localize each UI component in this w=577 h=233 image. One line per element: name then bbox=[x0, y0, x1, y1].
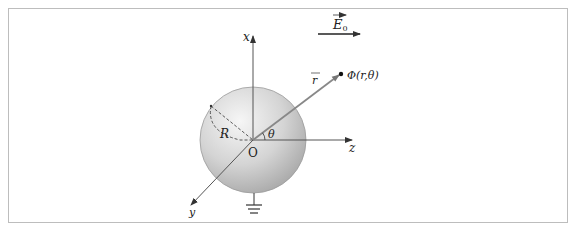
potential-label: Φ(r,θ) bbox=[347, 69, 379, 82]
radius-label: R bbox=[219, 127, 229, 141]
ground-icon bbox=[246, 193, 262, 213]
field-label: E0 bbox=[332, 17, 348, 33]
x-axis-label: x bbox=[243, 30, 250, 44]
y-axis-label: y bbox=[188, 206, 196, 219]
z-axis-label: z bbox=[348, 141, 356, 155]
position-vector-label: r bbox=[312, 74, 318, 87]
angle-label: θ bbox=[268, 128, 275, 141]
sphere-in-field-diagram: x z y O R θ r Φ(r,θ) E0 bbox=[0, 0, 577, 233]
origin-label: O bbox=[248, 146, 258, 160]
field-point bbox=[339, 72, 343, 76]
